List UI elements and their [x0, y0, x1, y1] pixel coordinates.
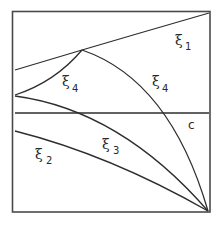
svg-text:1: 1: [185, 41, 191, 52]
svg-text:4: 4: [162, 83, 168, 94]
svg-text:ξ: ξ: [102, 136, 110, 152]
label-xi3: ξ 3: [102, 136, 119, 156]
svg-text:ξ: ξ: [35, 146, 43, 162]
bifurcation-diagram: ξ 1 ξ 4 ξ 4 ξ 3 ξ 2 c: [0, 0, 223, 226]
svg-text:2: 2: [46, 155, 52, 166]
label-xi4-left: ξ 4: [62, 73, 78, 94]
svg-text:4: 4: [72, 83, 78, 94]
curve-xi2: [15, 131, 208, 211]
label-xi2: ξ 2: [35, 146, 52, 166]
svg-text:3: 3: [113, 145, 119, 156]
svg-text:ξ: ξ: [175, 32, 183, 48]
svg-text:ξ: ξ: [62, 73, 70, 89]
svg-text:ξ: ξ: [152, 73, 160, 89]
label-xi1: ξ 1: [175, 32, 191, 52]
label-c: c: [188, 118, 195, 132]
label-xi4-right: ξ 4: [152, 73, 168, 94]
